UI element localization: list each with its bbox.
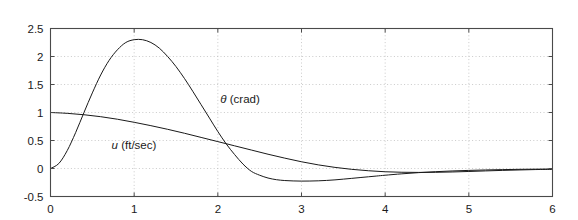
figure-background: [0, 0, 578, 220]
y-tick-label: 1: [37, 107, 43, 119]
x-tick-label: 1: [131, 203, 137, 215]
annotation-units: (crad): [227, 93, 260, 105]
y-tick-label: 2.5: [28, 23, 44, 35]
annotation-theta-label: θ (crad): [220, 93, 260, 105]
y-tick-label: 1.5: [28, 79, 44, 91]
x-tick-label: 5: [466, 203, 472, 215]
y-tick-label: -0.5: [24, 191, 44, 203]
x-tick-label: 0: [47, 203, 53, 215]
figure-container: 0123456 -0.500.511.522.5 θ (crad)u (ft/s…: [0, 0, 578, 220]
annotation-units: (ft/sec): [118, 139, 157, 151]
x-tick-label: 6: [549, 203, 555, 215]
y-tick-label: 0: [37, 163, 43, 175]
y-tick-label: 0.5: [28, 135, 44, 147]
x-tick-label: 3: [298, 203, 304, 215]
annotation-u-label: u (ft/sec): [112, 139, 157, 151]
x-tick-label: 2: [215, 203, 221, 215]
y-tick-label: 2: [37, 51, 43, 63]
x-tick-label: 4: [382, 203, 389, 215]
line-chart: 0123456 -0.500.511.522.5 θ (crad)u (ft/s…: [0, 0, 578, 220]
